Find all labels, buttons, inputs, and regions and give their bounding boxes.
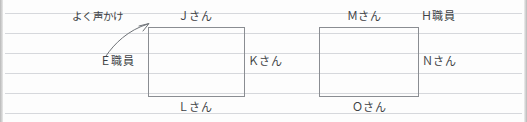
ruled-line — [5, 93, 522, 94]
label-person-m: Ｍさん — [347, 10, 381, 23]
ruled-line — [5, 113, 522, 114]
label-person-o: Ｏさん — [352, 101, 386, 114]
ruled-line — [5, 53, 522, 54]
label-person-j: Ｊさん — [178, 10, 212, 23]
ruled-line — [5, 33, 522, 34]
label-staff-h: Ｈ職員 — [421, 10, 455, 23]
label-staff-e: Ｅ職員 — [100, 55, 134, 68]
page-edge-left — [0, 0, 3, 122]
ruled-line — [5, 73, 522, 74]
annotation-label-koekake: よく声かけ — [72, 10, 124, 23]
table-box-right — [319, 27, 419, 97]
notebook-diagram-canvas: よく声かけ Ｊさん Ｍさん Ｈ職員 Ｅ職員 Ｋさん Ｎさん Ｌさん Ｏさん — [0, 0, 527, 122]
label-person-k: Ｋさん — [248, 55, 282, 68]
label-person-n: Ｎさん — [422, 55, 456, 68]
label-person-l: Ｌさん — [178, 101, 212, 114]
